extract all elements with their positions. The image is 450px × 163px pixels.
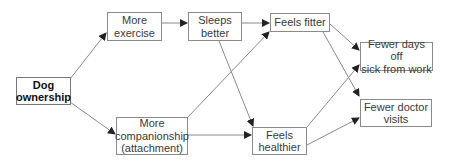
edge-healthier-doctor [307, 118, 359, 145]
edge-dog-companion [70, 102, 115, 134]
node-more-exercise: More exercise [107, 12, 162, 41]
node-fewer-doctor-visits: Fewer doctor visits [360, 99, 432, 127]
edge-dog-exercise [70, 33, 106, 79]
node-fewer-days-off-sick: Fewer days off sick from work [360, 42, 433, 71]
node-dog-ownership: Dog ownership [16, 77, 71, 105]
edge-companion-fitter [188, 32, 269, 117]
edge-fitter-sick [330, 24, 359, 50]
node-sleeps-better: Sleeps better [188, 12, 242, 41]
node-more-companionship: More companionship (attachment) [116, 117, 188, 155]
node-feels-fitter: Feels fitter [270, 13, 330, 32]
edge-healthier-sick [307, 65, 359, 127]
node-feels-healthier: Feels healthier [252, 127, 307, 155]
